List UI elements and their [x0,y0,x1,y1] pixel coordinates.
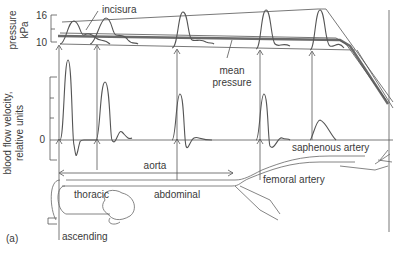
panel-label: (a) [6,233,18,244]
mean-pressure-label-2: pressure [213,77,252,88]
pressure-tick-16: 16 [36,10,48,21]
femoral-artery-label: femoral artery [263,174,325,185]
pressure-axis-label: pressure [7,10,18,49]
velocity-tick-0: 0 [39,134,45,145]
pressure-tick-10: 10 [36,37,48,48]
saphenous-artery-label: saphenous artery [292,142,369,153]
pressure-waveforms [60,10,344,50]
pressure-envelope [60,9,393,108]
ascending-label: ascending [62,231,108,242]
arterial-pressure-flow-diagram: pressure kPa 16 10 incisura mean pressur… [0,0,394,258]
velocity-axis-label: blood flow velocity, [2,91,13,174]
abdominal-label: abdominal [154,189,200,200]
vessel-outline [51,150,392,220]
velocity-unit-label: relative units [14,105,25,161]
incisura-label: incisura [102,4,137,15]
aorta-arrow: aorta [59,160,233,176]
velocity-axis: blood flow velocity, relative units 0 [2,77,393,175]
thoracic-label: thoracic [74,189,109,200]
pressure-axis: pressure kPa 16 10 [7,10,57,49]
mean-pressure-label: mean [219,65,244,76]
aorta-label: aorta [144,160,167,171]
pressure-unit-label: kPa [19,21,30,39]
